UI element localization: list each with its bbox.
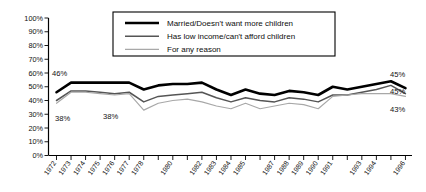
- y-tick-label: 30%: [28, 110, 43, 119]
- y-tick-label: 40%: [28, 96, 43, 105]
- x-tick-label: 1978: [130, 159, 145, 176]
- x-tick-label: 1988: [275, 159, 290, 176]
- annotation-right-bottom: 43%: [390, 105, 405, 114]
- x-tick-label: 1990: [304, 159, 319, 176]
- y-tick-label: 50%: [28, 82, 43, 91]
- x-tick-label: 1984: [217, 159, 232, 176]
- line-chart: 100%90%80%70%60%50%40%30%20%10%0% 197219…: [0, 0, 426, 192]
- x-tick-label: 1976: [101, 159, 116, 176]
- x-tick-labels: 1972197319741975197619771978198019821983…: [43, 159, 407, 176]
- x-tick-label: 1996: [392, 159, 407, 176]
- series-lines: [57, 81, 406, 110]
- y-tick-labels: 100%90%80%70%60%50%40%30%20%10%0%: [24, 14, 43, 161]
- data-annotations: 46%38%38%45%45%43%: [52, 69, 405, 123]
- y-tick-label: 20%: [28, 124, 43, 133]
- x-tick-label: 1983: [203, 159, 218, 176]
- y-axis-group: 100%90%80%70%60%50%40%30%20%10%0%: [24, 14, 48, 161]
- x-tick-label: 1972: [43, 159, 58, 176]
- chart-legend: Married/Doesn't want more childrenHas lo…: [113, 12, 335, 56]
- x-tick-label: 1980: [159, 159, 174, 176]
- x-axis-group: 1972197319741975197619771978198019821983…: [43, 156, 412, 177]
- y-tick-label: 100%: [24, 14, 43, 23]
- x-tick-label: 1982: [188, 159, 203, 176]
- annotation-left-bottom-b: 38%: [103, 112, 118, 121]
- x-tick-label: 1973: [57, 159, 72, 176]
- legend-label-3: For any reason: [167, 45, 221, 54]
- annotation-right-top: 45%: [390, 70, 405, 79]
- legend-label-2: Has low income/can't afford children: [167, 32, 295, 41]
- annotation-left-top: 46%: [52, 69, 67, 78]
- y-tick-label: 0%: [32, 151, 43, 160]
- x-tick-label: 1985: [232, 159, 247, 176]
- chart-canvas: 100%90%80%70%60%50%40%30%20%10%0% 197219…: [0, 0, 426, 192]
- y-tick-label: 60%: [28, 69, 43, 78]
- y-tick-label: 70%: [28, 55, 43, 64]
- annotation-left-bottom-a: 38%: [55, 114, 70, 123]
- annotation-right-mid: 45%: [390, 87, 405, 96]
- y-tick-label: 90%: [28, 27, 43, 36]
- x-tick-label: 1977: [115, 159, 130, 176]
- x-tick-label: 1991: [319, 159, 334, 176]
- x-tick-label: 1987: [261, 159, 276, 176]
- x-tick-label: 1989: [290, 159, 305, 176]
- legend-label-1: Married/Doesn't want more children: [167, 19, 293, 28]
- y-tick-label: 10%: [28, 137, 43, 146]
- x-tick-label: 1994: [363, 159, 378, 176]
- x-tick-label: 1974: [72, 159, 87, 176]
- x-tick-label: 1993: [348, 159, 363, 176]
- x-tick-label: 1975: [86, 159, 101, 176]
- y-tick-label: 80%: [28, 41, 43, 50]
